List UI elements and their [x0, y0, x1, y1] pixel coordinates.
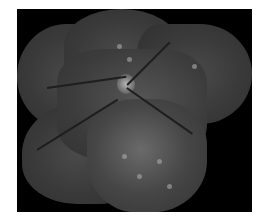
exudate-spot — [157, 159, 162, 164]
exudate-spot — [192, 64, 197, 69]
exudate-spot — [137, 174, 142, 179]
exudate-spot — [122, 154, 127, 159]
fundus-field-bottom — [87, 99, 207, 212]
exudate-spot — [127, 57, 132, 62]
fundus-montage-image — [17, 9, 252, 212]
exudate-spot — [167, 184, 172, 189]
exudate-spot — [117, 44, 122, 49]
